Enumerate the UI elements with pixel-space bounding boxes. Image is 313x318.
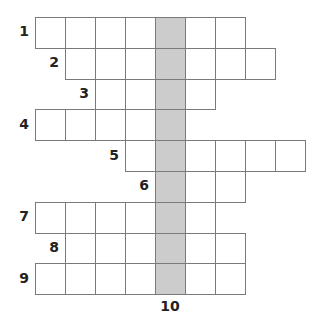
crossword-cell-row8-col5[interactable] bbox=[185, 233, 216, 265]
crossword-cell-row6-col4[interactable] bbox=[155, 171, 186, 203]
crossword-cell-row7-col1[interactable] bbox=[65, 202, 96, 234]
crossword-cell-row9-col3[interactable] bbox=[125, 263, 156, 295]
crossword-cell-row3-col5[interactable] bbox=[185, 79, 216, 111]
crossword-cell-row3-col4[interactable] bbox=[155, 79, 186, 111]
crossword-cell-row5-col4[interactable] bbox=[155, 140, 186, 172]
crossword-cell-row1-col0[interactable] bbox=[35, 17, 66, 49]
clue-number-10: 10 bbox=[155, 299, 185, 313]
clue-number-6: 6 bbox=[129, 178, 149, 192]
crossword-cell-row1-col5[interactable] bbox=[185, 17, 216, 49]
crossword-cell-row1-col1[interactable] bbox=[65, 17, 96, 49]
crossword-cell-row5-col3[interactable] bbox=[125, 140, 156, 172]
crossword-cell-row7-col3[interactable] bbox=[125, 202, 156, 234]
crossword-cell-row6-col5[interactable] bbox=[185, 171, 216, 203]
crossword-cell-row9-col1[interactable] bbox=[65, 263, 96, 295]
crossword-cell-row2-col5[interactable] bbox=[185, 48, 216, 80]
crossword-cell-row4-col4[interactable] bbox=[155, 109, 186, 141]
crossword-cell-row2-col7[interactable] bbox=[245, 48, 276, 80]
crossword-cell-row1-col3[interactable] bbox=[125, 17, 156, 49]
crossword-cell-row4-col0[interactable] bbox=[35, 109, 66, 141]
crossword-cell-row9-col0[interactable] bbox=[35, 263, 66, 295]
crossword-cell-row8-col3[interactable] bbox=[125, 233, 156, 265]
crossword-cell-row7-col0[interactable] bbox=[35, 202, 66, 234]
crossword-cell-row3-col2[interactable] bbox=[95, 79, 126, 111]
crossword-cell-row4-col2[interactable] bbox=[95, 109, 126, 141]
crossword-cell-row2-col1[interactable] bbox=[65, 48, 96, 80]
clue-number-1: 1 bbox=[9, 24, 29, 38]
crossword-cell-row4-col1[interactable] bbox=[65, 109, 96, 141]
clue-number-3: 3 bbox=[69, 86, 89, 100]
crossword-cell-row5-col6[interactable] bbox=[215, 140, 246, 172]
clue-number-7: 7 bbox=[9, 209, 29, 223]
crossword-cell-row5-col8[interactable] bbox=[275, 140, 306, 172]
crossword-cell-row9-col4[interactable] bbox=[155, 263, 186, 295]
clue-number-2: 2 bbox=[39, 55, 59, 69]
crossword-cell-row7-col4[interactable] bbox=[155, 202, 186, 234]
crossword-cell-row7-col2[interactable] bbox=[95, 202, 126, 234]
clue-number-5: 5 bbox=[99, 148, 119, 162]
crossword-cell-row1-col4[interactable] bbox=[155, 17, 186, 49]
crossword-cell-row9-col5[interactable] bbox=[185, 263, 216, 295]
crossword-cell-row5-col5[interactable] bbox=[185, 140, 216, 172]
crossword-cell-row6-col6[interactable] bbox=[215, 171, 246, 203]
crossword-cell-row8-col4[interactable] bbox=[155, 233, 186, 265]
crossword-cell-row2-col4[interactable] bbox=[155, 48, 186, 80]
cut-off-header-text: — — bbox=[278, 0, 304, 4]
crossword-cell-row2-col6[interactable] bbox=[215, 48, 246, 80]
clue-number-9: 9 bbox=[9, 271, 29, 285]
crossword-cell-row1-col2[interactable] bbox=[95, 17, 126, 49]
crossword-cell-row2-col2[interactable] bbox=[95, 48, 126, 80]
crossword-cell-row1-col6[interactable] bbox=[215, 17, 246, 49]
crossword-cell-row8-col2[interactable] bbox=[95, 233, 126, 265]
crossword-cell-row8-col1[interactable] bbox=[65, 233, 96, 265]
crossword-cell-row4-col3[interactable] bbox=[125, 109, 156, 141]
crossword-cell-row2-col3[interactable] bbox=[125, 48, 156, 80]
crossword-grid: — — 12345678910 bbox=[0, 0, 313, 318]
crossword-cell-row7-col5[interactable] bbox=[185, 202, 216, 234]
crossword-cell-row5-col7[interactable] bbox=[245, 140, 276, 172]
clue-number-8: 8 bbox=[39, 240, 59, 254]
clue-number-4: 4 bbox=[9, 117, 29, 131]
crossword-cell-row3-col3[interactable] bbox=[125, 79, 156, 111]
crossword-cell-row9-col2[interactable] bbox=[95, 263, 126, 295]
crossword-cell-row8-col6[interactable] bbox=[215, 233, 246, 265]
crossword-cell-row9-col6[interactable] bbox=[215, 263, 246, 295]
